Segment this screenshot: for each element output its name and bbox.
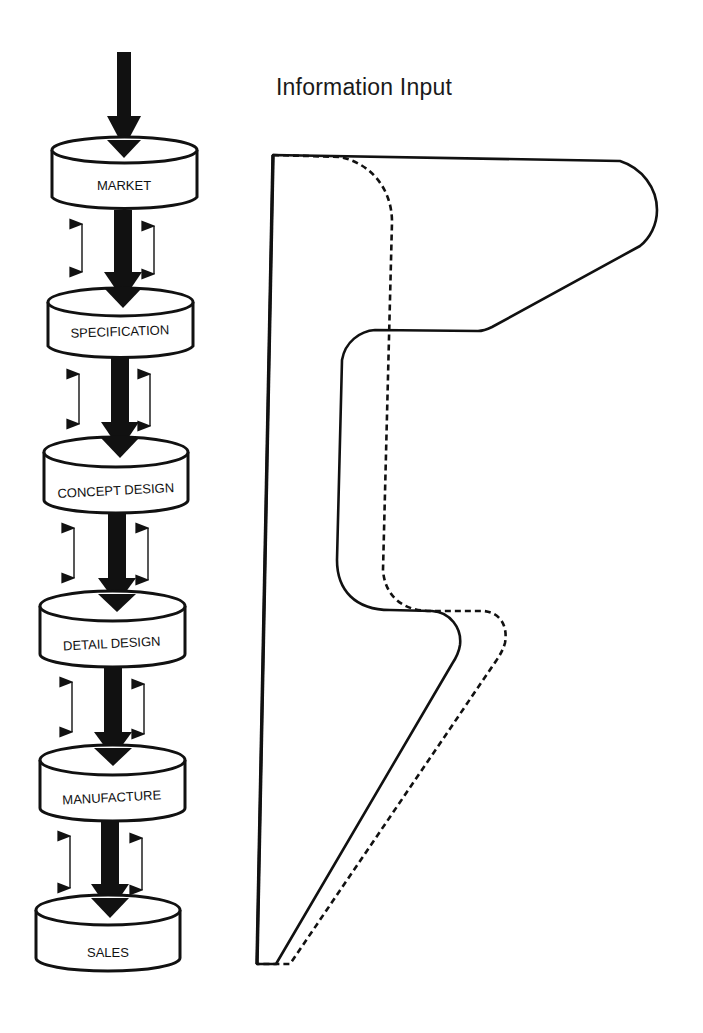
stage-manufacture: MANUFACTURE: [40, 745, 185, 821]
design-process-diagram: MARKET SPECIFICATION CONCEPT DESIGN: [0, 0, 703, 1033]
stage-concept-design: CONCEPT DESIGN: [44, 437, 188, 513]
stage-label: SALES: [87, 945, 129, 960]
dashed-information-profile: [257, 155, 506, 964]
stage-specification: SPECIFICATION: [48, 288, 193, 357]
stage-market: MARKET: [52, 137, 197, 208]
stage-label: MARKET: [97, 178, 151, 193]
stage-sales: SALES: [36, 895, 180, 971]
solid-information-profile: [257, 155, 657, 964]
entry-flow-arrow: [107, 52, 141, 148]
stage-detail-design: DETAIL DESIGN: [40, 591, 185, 667]
flow-arrow: [104, 210, 142, 300]
profile-left-edge: [257, 155, 273, 964]
